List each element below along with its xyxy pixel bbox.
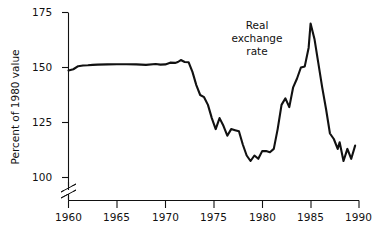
y-tick-label-175: 175 [32, 6, 52, 18]
x-tick-marks [69, 201, 360, 209]
chart-figure: Percent of 1980 value 175 150 125 100 19… [0, 0, 377, 237]
annotation-line-1: Real [219, 19, 295, 32]
axis-break-marks [61, 182, 76, 201]
y-tick-marks [62, 13, 69, 178]
annotation-line-2: exchange [219, 32, 295, 45]
line-chart-canvas: Percent of 1980 value [0, 0, 377, 237]
data-series-real-exchange-rate [69, 24, 356, 162]
y-axis-title: Percent of 1980 value [9, 49, 21, 164]
y-tick-label-150: 150 [32, 61, 52, 73]
series-annotation: Real exchange rate [219, 19, 295, 58]
x-tick-label-1960: 1960 [55, 211, 82, 223]
x-tick-label-1980: 1980 [249, 211, 276, 223]
y-tick-label-100: 100 [32, 171, 52, 183]
annotation-line-3: rate [219, 45, 295, 58]
x-tick-label-1970: 1970 [152, 211, 179, 223]
x-tick-label-1990: 1990 [345, 211, 372, 223]
x-tick-label-1985: 1985 [297, 211, 324, 223]
y-tick-label-125: 125 [32, 116, 52, 128]
x-tick-label-1975: 1975 [200, 211, 227, 223]
x-tick-label-1965: 1965 [103, 211, 130, 223]
